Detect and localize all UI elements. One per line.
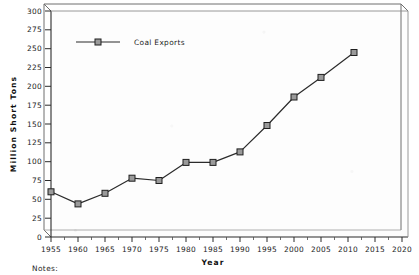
data-point-marker (237, 149, 243, 155)
y-tick-label: 200 (27, 82, 42, 91)
x-tick-label: 1970 (122, 245, 142, 254)
y-tick-label: 50 (32, 195, 42, 204)
data-point-marker (48, 189, 54, 195)
y-tick-label: 300 (27, 7, 42, 16)
x-tick-label: 2005 (311, 245, 331, 254)
legend-label-coal-exports: Coal Exports (134, 38, 185, 47)
y-tick-label: 225 (27, 63, 42, 72)
legend-marker-square (95, 39, 101, 45)
notes-label: Notes: (32, 256, 58, 275)
x-tick-label: 1975 (149, 245, 169, 254)
x-tick-label: 1985 (203, 245, 223, 254)
x-tick-label: 2010 (338, 245, 358, 254)
data-point-marker (75, 201, 81, 207)
data-point-marker (351, 50, 357, 56)
x-tick-label: 1990 (230, 245, 250, 254)
x-tick-labels: 1955 1960 1965 1970 1975 1980 1985 1990 … (41, 245, 412, 254)
plot-background (51, 11, 408, 237)
y-tick-label: 75 (32, 176, 42, 185)
data-point-marker (183, 159, 189, 165)
x-tick-label: 1995 (257, 245, 277, 254)
y-tick-label: 250 (27, 44, 42, 53)
y-tick-label: 100 (27, 157, 42, 166)
data-point-marker (156, 178, 162, 184)
y-tick-label: 150 (27, 120, 42, 129)
data-point-marker (129, 175, 135, 181)
x-tick-label: 2020 (392, 245, 412, 254)
y-tick-label: 175 (27, 101, 42, 110)
y-tick-label: 25 (32, 214, 42, 223)
data-point-marker (291, 94, 297, 100)
x-axis-title: Year (200, 258, 224, 267)
data-point-marker (102, 190, 108, 196)
notes-text: Notes: (32, 264, 58, 273)
data-point-marker (264, 123, 270, 129)
x-tick-label: 1955 (41, 245, 61, 254)
y-tick-labels: 0 25 50 75 100 125 150 175 200 225 250 2… (27, 7, 42, 242)
y-tick-label: 125 (27, 138, 42, 147)
data-point-marker (318, 74, 324, 80)
data-point-marker (210, 159, 216, 165)
x-tick-label: 2015 (365, 245, 385, 254)
y-axis-ticks (45, 11, 51, 237)
y-tick-label: 0 (37, 233, 42, 242)
y-tick-label: 275 (27, 25, 42, 34)
y-axis-title: Million Short Tons (9, 76, 18, 172)
x-tick-label: 1980 (176, 245, 196, 254)
x-tick-label: 1965 (95, 245, 115, 254)
x-tick-label: 1960 (68, 245, 88, 254)
x-tick-label: 2000 (284, 245, 304, 254)
